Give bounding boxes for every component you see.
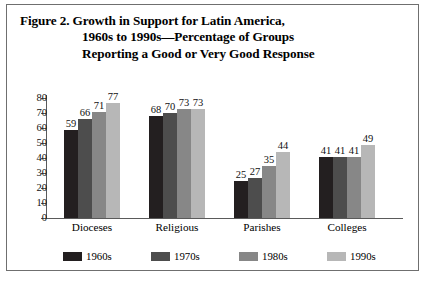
bar-slot: 49 xyxy=(361,95,375,218)
bar[interactable] xyxy=(248,178,262,219)
bar-slot: 41 xyxy=(319,95,333,218)
y-axis-tick-label: 10 xyxy=(25,198,47,208)
bar[interactable] xyxy=(106,103,120,219)
bar[interactable] xyxy=(361,145,375,219)
y-axis-tick-label-wrap: 80 xyxy=(7,93,47,103)
legend-swatch xyxy=(239,252,258,261)
bar-slot: 70 xyxy=(163,95,177,218)
legend-swatch xyxy=(151,252,170,261)
legend-entry[interactable]: 1970s xyxy=(151,249,200,263)
legend-label: 1970s xyxy=(174,251,200,262)
bar[interactable] xyxy=(92,112,106,219)
y-axis-tick-label: 30 xyxy=(25,168,47,178)
y-axis-tick-label: 20 xyxy=(25,183,47,193)
figure-frame: Figure 2. Growth in Support for Latin Am… xyxy=(6,4,419,271)
bar-slot: 71 xyxy=(92,95,106,218)
bar-slot: 66 xyxy=(78,95,92,218)
y-axis-tick-label-wrap: 70 xyxy=(7,108,47,118)
bar-slot: 41 xyxy=(347,95,361,218)
legend-entry[interactable]: 1960s xyxy=(63,249,112,263)
bar[interactable] xyxy=(163,113,177,218)
category-label: Colleges xyxy=(292,221,402,234)
bar-value-label: 73 xyxy=(187,97,209,108)
y-axis-tick-label: 60 xyxy=(25,123,47,133)
bar-slot: 73 xyxy=(191,95,205,218)
legend-label: 1990s xyxy=(350,251,376,262)
y-axis-tick-label: 70 xyxy=(25,108,47,118)
bar[interactable] xyxy=(191,109,205,219)
bar-group: 68707373 xyxy=(149,95,205,218)
bar[interactable] xyxy=(347,157,361,219)
bar[interactable] xyxy=(177,109,191,219)
bar[interactable] xyxy=(276,152,290,218)
y-axis-tick-label-wrap: 20 xyxy=(7,183,47,193)
bar-slot: 35 xyxy=(262,95,276,218)
bar-slot: 41 xyxy=(333,95,347,218)
bar-value-label: 49 xyxy=(357,133,379,144)
bar[interactable] xyxy=(319,157,333,219)
legend-entry[interactable]: 1980s xyxy=(239,249,288,263)
y-axis-tick-label-wrap: 10 xyxy=(7,198,47,208)
legend-swatch xyxy=(327,252,346,261)
bar[interactable] xyxy=(234,181,248,219)
chart-legend: 1960s1970s1980s1990s xyxy=(7,249,420,265)
bar[interactable] xyxy=(333,157,347,219)
bar-slot: 25 xyxy=(234,95,248,218)
legend-entry[interactable]: 1990s xyxy=(327,249,376,263)
bar-value-label: 77 xyxy=(102,91,124,102)
bar-group: 41414149 xyxy=(319,95,375,218)
bar-slot: 77 xyxy=(106,95,120,218)
y-axis-tick-label: 40 xyxy=(25,153,47,163)
legend-swatch xyxy=(63,252,82,261)
bar-slot: 44 xyxy=(276,95,290,218)
bar[interactable] xyxy=(78,119,92,218)
x-axis-line xyxy=(46,218,403,219)
bar-value-label: 44 xyxy=(272,140,294,151)
legend-label: 1980s xyxy=(262,251,288,262)
y-axis-tick-label-wrap: 30 xyxy=(7,168,47,178)
y-axis-tick-label-wrap: 50 xyxy=(7,138,47,148)
bar-group: 59667177 xyxy=(64,95,120,218)
bar[interactable] xyxy=(64,130,78,219)
bar-slot: 73 xyxy=(177,95,191,218)
legend-label: 1960s xyxy=(86,251,112,262)
y-axis-tick-label-wrap: 40 xyxy=(7,153,47,163)
bar-slot: 68 xyxy=(149,95,163,218)
y-axis-tick-label: 80 xyxy=(25,93,47,103)
bar-chart-plot-area: 01020304050607080 5966717768707373252735… xyxy=(7,5,420,272)
y-axis-tick-label: 50 xyxy=(25,138,47,148)
bar-group: 25273544 xyxy=(234,95,290,218)
bar[interactable] xyxy=(262,166,276,219)
bar[interactable] xyxy=(149,116,163,218)
y-axis-tick-label-wrap: 60 xyxy=(7,123,47,133)
